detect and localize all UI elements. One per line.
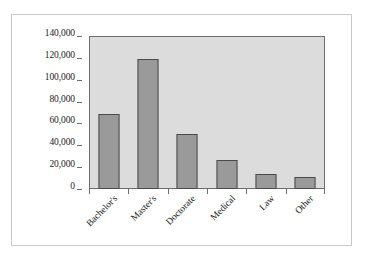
y-axis-tick-mark [77,36,82,37]
y-axis-tick-mark [77,123,82,124]
y-axis-tick-label: 100,000 [45,73,75,83]
bars-group [89,36,325,189]
y-axis-tick-label: 140,000 [45,29,75,39]
y-axis-tick-label: 40,000 [49,138,75,148]
bar-slot [89,36,128,189]
bar [295,177,316,189]
bar-slot [168,36,207,189]
y-axis-tick-mark [77,102,82,103]
y-axis-tick-label: 60,000 [49,116,75,126]
y-axis-tick-mark [77,145,82,146]
y-axis-tick-label: 80,000 [49,95,75,105]
x-axis-label-text: Doctorate [165,194,198,227]
chart-canvas: 020,00040,00060,00080,000100,000120,0001… [0,0,365,264]
y-axis-tick-mark [77,80,82,81]
x-axis-label-text: Bachelor's [85,194,120,229]
bar-slot [286,36,325,189]
y-axis-tick-mark [77,167,82,168]
bar-slot [207,36,246,189]
bar [255,174,276,189]
y-axis-tick-mark [77,189,82,190]
y-axis-tick-label: 20,000 [49,160,75,170]
x-axis-label-text: Other [294,194,316,216]
bar-slot [128,36,167,189]
bar [98,114,119,189]
x-axis-label-text: Law [258,194,277,213]
y-axis-tick-label: 0 [70,182,75,192]
y-axis: 020,00040,00060,00080,000100,000120,0001… [24,36,82,189]
x-axis-labels: Bachelor'sMaster'sDoctorateMedicalLawOth… [89,194,325,240]
y-axis-tick-mark [77,58,82,59]
x-axis-label-text: Master's [130,194,159,223]
x-axis-label-text: Medical [209,194,238,223]
bar-slot [246,36,285,189]
y-axis-tick-label: 120,000 [45,51,75,61]
bar [177,134,198,189]
